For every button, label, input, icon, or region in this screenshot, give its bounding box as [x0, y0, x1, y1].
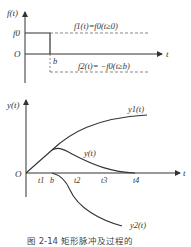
f0-label: f0 [13, 28, 21, 38]
tick-b: b [50, 176, 54, 185]
f1-label: f1(t)=f0(t≥0) [74, 21, 118, 31]
top-y-axis-label: f(t) [7, 8, 18, 18]
tick-t1: t1 [38, 176, 44, 185]
figure-canvas: f(t) t O f0 b f1(t)=f0(t≥0) f2(t)= −f0(t… [0, 0, 191, 247]
top-t-axis-label: t [166, 49, 169, 59]
label-y: y(t) [83, 148, 96, 158]
curve-y1 [26, 115, 147, 173]
f2-label: f2(t)= −f0(t≥b) [78, 61, 130, 71]
top-b-label: b [53, 56, 57, 66]
bottom-y-axis-label: y(t) [6, 100, 20, 110]
bottom-chart: y(t) t O t1 b t2 t3 t4 y1(t) y(t) y2(t) [6, 100, 186, 230]
top-origin-label: O [14, 49, 21, 59]
label-y1: y1(t) [127, 104, 144, 114]
tick-t4: t4 [133, 176, 139, 185]
figure-caption: 图 2-14 矩形脉冲及过程的 [27, 236, 133, 246]
curve-y2 [52, 173, 122, 226]
bottom-origin-label: O [15, 169, 22, 179]
rect-pulse [25, 33, 50, 54]
label-y2: y2(t) [129, 220, 146, 230]
tick-t3: t3 [101, 176, 107, 185]
top-chart: f(t) t O f0 b f1(t)=f0(t≥0) f2(t)= −f0(t… [7, 8, 169, 83]
bottom-t-axis-label: t [183, 168, 186, 178]
tick-t2: t2 [74, 176, 80, 185]
